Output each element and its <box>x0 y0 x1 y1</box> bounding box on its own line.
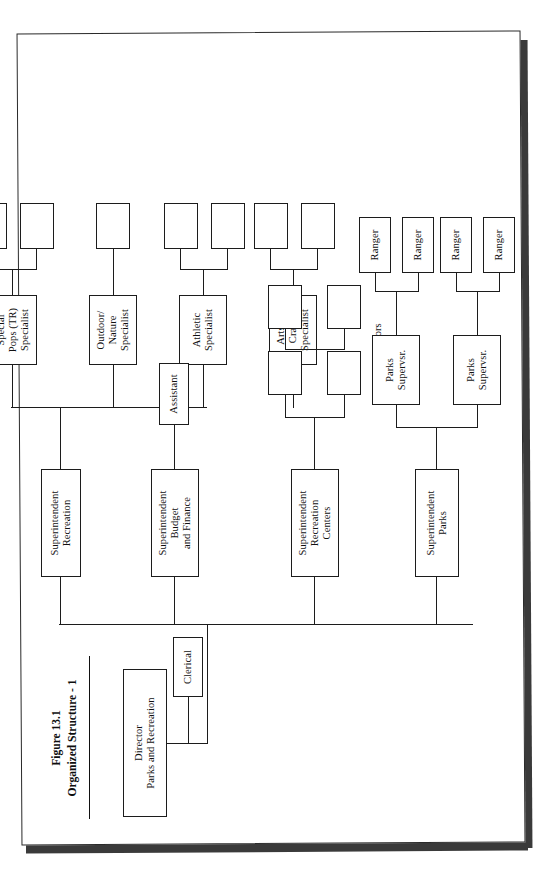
connector-budget-to-assistant <box>174 425 175 469</box>
title-underline <box>89 656 90 819</box>
trunk-vertical-spine <box>59 624 473 625</box>
node-outdoor-nature-specialist[interactable]: Outdoor/ Nature Specialist <box>89 295 137 365</box>
connector-director-down <box>167 743 207 744</box>
connector-pops-out <box>12 269 13 295</box>
arts-child-spine <box>270 269 318 270</box>
connector-athletic-child-2 <box>227 248 228 270</box>
center-dir-spine <box>285 417 345 418</box>
node-pops-sub-2[interactable] <box>20 203 54 249</box>
node-special-pops-specialist[interactable]: Special Pops (TR) Specialist <box>0 295 37 365</box>
connector-athletic-out <box>203 269 204 295</box>
connector-outdoor <box>113 365 114 408</box>
ranger-4-label: Ranger <box>493 230 505 261</box>
connector-supt-parks <box>436 577 437 625</box>
org-chart-canvas: Figure 13.1 Organized Structure - 1 Dire… <box>0 0 545 870</box>
connector-parks-out <box>436 427 437 469</box>
supt-rc-l2: Recreation <box>309 491 321 556</box>
node-assistant[interactable]: Assistant <box>159 363 189 425</box>
connector-ranger-4 <box>499 272 500 292</box>
athletic-child-spine <box>180 269 228 270</box>
parks-sup-1-l1: Parks <box>384 350 396 390</box>
ranger-2-label: Ranger <box>412 230 424 261</box>
org-chart-inner: Figure 13.1 Organized Structure - 1 Dire… <box>23 25 523 845</box>
connector-athletic-child-1 <box>180 248 181 270</box>
node-parks-supervisor-1[interactable]: Parks Supervsr. <box>372 335 420 405</box>
node-ranger-4[interactable]: Ranger <box>483 217 515 273</box>
node-center-director-2[interactable] <box>327 351 361 395</box>
connector-clerical-stub <box>188 697 189 744</box>
supt-bud-l2: Budget <box>169 491 181 556</box>
supt-parks-l2: Parks <box>437 491 449 556</box>
connector-ranger-3 <box>456 272 457 292</box>
parks-sup-1-l2: Supervsr. <box>396 350 408 390</box>
connector-ranger-group-1 <box>396 291 397 335</box>
node-supt-recreation[interactable]: Superintendent Recreation <box>41 469 81 577</box>
parks-sup-2-l1: Parks <box>465 350 477 390</box>
connector-center-row-bottom-2 <box>344 328 345 350</box>
supt-rec-l2: Recreation <box>61 491 73 556</box>
node-arts-sub-2[interactable] <box>301 203 335 249</box>
node-director[interactable]: Director Parks and Recreation <box>123 669 167 817</box>
connector-supt-recreation <box>60 577 61 625</box>
node-ranger-1[interactable]: Ranger <box>359 217 391 273</box>
connector-center-row-bottom <box>344 394 345 418</box>
pops-child-spine <box>0 269 37 270</box>
node-parks-supervisor-2[interactable]: Parks Supervsr. <box>453 335 501 405</box>
director-line-1: Director <box>133 697 145 788</box>
connector-center-row-top-2 <box>285 328 286 350</box>
ranger-spine-2 <box>456 291 500 292</box>
figure-title: Organized Structure - 1 <box>64 653 80 823</box>
connector-athletic <box>203 365 204 408</box>
connector-ranger-1 <box>375 272 376 292</box>
outdoor-l1: Outdoor/ <box>95 309 107 351</box>
connector-outdoor-child <box>113 249 114 295</box>
node-clerical[interactable]: Clerical <box>173 637 203 697</box>
node-supt-recreation-centers[interactable]: Superintendent Recreation Centers <box>291 469 339 577</box>
ranger-1-label: Ranger <box>369 230 381 261</box>
node-supt-budget-finance[interactable]: Superintendent Budget and Finance <box>151 469 199 577</box>
node-ranger-3[interactable]: Ranger <box>440 217 472 273</box>
parks-sup-spine <box>396 427 478 428</box>
assistant-label: Assistant <box>168 374 180 413</box>
supt-bud-l1: Superintendent <box>157 491 169 556</box>
center-dir-spine-2 <box>285 349 345 350</box>
connector-ranger-2 <box>418 272 419 292</box>
node-arts-sub-1[interactable] <box>254 203 288 249</box>
node-pops-sub-1[interactable] <box>0 203 7 249</box>
node-supt-parks[interactable]: Superintendent Parks <box>415 469 459 577</box>
connector-rec-centers-out <box>314 417 315 469</box>
supt-rc-l3: Centers <box>320 491 332 556</box>
node-center-director-1[interactable] <box>268 351 302 395</box>
node-athletic-sub-2[interactable] <box>211 203 245 249</box>
supt-rec-l1: Superintendent <box>49 491 61 556</box>
figure-number: Figure 13.1 <box>49 653 65 823</box>
connector-special-pops <box>12 365 13 408</box>
outdoor-l3: Specialist <box>118 309 130 351</box>
supt-parks-l1: Superintendent <box>425 491 437 556</box>
node-ranger-2[interactable]: Ranger <box>402 217 434 273</box>
pops-l2: Pops (TR) <box>7 308 19 352</box>
connector-arts-child-2 <box>317 248 318 270</box>
clerical-label: Clerical <box>182 650 194 684</box>
node-athletic-sub-1[interactable] <box>164 203 198 249</box>
connector-recreation-to-spine <box>60 407 61 469</box>
pops-l1: Special <box>0 308 7 352</box>
outdoor-l2: Nature <box>107 309 119 351</box>
node-center-director-4[interactable] <box>327 285 361 329</box>
node-athletic-specialist[interactable]: Athletic Specialist <box>179 295 227 365</box>
node-outdoor-sub-1[interactable] <box>96 203 130 249</box>
connector-parks-sup-2 <box>477 404 478 428</box>
connector-supt-budget <box>174 577 175 625</box>
trunk-horizontal <box>207 624 208 744</box>
parks-sup-2-l2: Supervsr. <box>477 350 489 390</box>
connector-center-row-top <box>285 394 286 418</box>
connector-ranger-group-2 <box>477 291 478 335</box>
node-center-director-3[interactable] <box>268 285 302 329</box>
connector-supt-rec-centers <box>314 577 315 625</box>
supt-bud-l3: and Finance <box>180 491 192 556</box>
connector-arts-child-1 <box>270 248 271 270</box>
connector-parks-sup-1 <box>396 404 397 428</box>
pops-l3: Specialist <box>18 308 30 352</box>
director-line-2: Parks and Recreation <box>145 697 157 788</box>
athletic-l1: Athletic <box>191 309 203 351</box>
